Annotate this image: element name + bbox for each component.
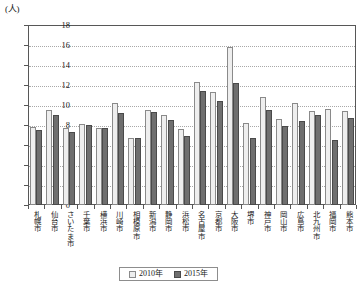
bar-group — [30, 25, 43, 205]
bar-2010 — [260, 97, 266, 205]
bar-2015 — [266, 110, 272, 205]
x-axis-tick-mark — [307, 205, 308, 209]
bar-chart: (人) 024681012141618 札幌市仙台市さいたま市千葉市横浜市川崎市… — [0, 0, 364, 290]
bar-2010 — [276, 119, 282, 205]
bar-2015 — [233, 83, 239, 205]
bar-group — [325, 25, 338, 205]
x-axis-tick-mark — [143, 205, 144, 209]
bar-group — [145, 25, 158, 205]
x-axis-label: 大阪市 — [229, 210, 238, 232]
x-axis-label: 堺市 — [245, 210, 254, 224]
bar-2015 — [299, 121, 305, 205]
x-axis-label: 岡山市 — [278, 210, 287, 232]
bar-2015 — [151, 112, 157, 205]
bar-group — [309, 25, 322, 205]
bar-2015 — [118, 113, 124, 205]
x-axis-tick-mark — [28, 205, 29, 209]
bar-group — [243, 25, 256, 205]
x-axis-label: 熊本市 — [343, 210, 352, 232]
bar-group — [178, 25, 191, 205]
bar-group — [96, 25, 109, 205]
bar-2015 — [168, 120, 174, 205]
bar-group — [63, 25, 76, 205]
bar-2010 — [145, 110, 151, 205]
bar-2010 — [46, 110, 52, 205]
x-axis-tick-mark — [225, 205, 226, 209]
x-axis-tick-mark — [323, 205, 324, 209]
x-axis-tick-mark — [110, 205, 111, 209]
x-axis-label: 北九州市 — [311, 210, 320, 239]
bar-2015 — [250, 138, 256, 205]
x-axis-tick-mark — [208, 205, 209, 209]
x-axis-tick-mark — [356, 205, 357, 209]
x-axis-label: 千葉市 — [81, 210, 90, 232]
bar-group — [112, 25, 125, 205]
x-axis-tick-mark — [94, 205, 95, 209]
bar-group — [79, 25, 92, 205]
bar-2010 — [178, 129, 184, 205]
bar-2010 — [96, 128, 102, 205]
bar-2010 — [79, 124, 85, 205]
x-axis-label: 浜松市 — [179, 210, 188, 232]
y-axis-unit-label: (人) — [5, 4, 19, 15]
x-axis-tick-mark — [44, 205, 45, 209]
x-axis-tick-mark — [61, 205, 62, 209]
legend-item-2010: 2010年 — [129, 270, 163, 278]
x-axis-label: 相模原市 — [130, 210, 139, 239]
bar-2015 — [135, 138, 141, 205]
bar-2010 — [63, 128, 69, 205]
bar-2015 — [69, 132, 75, 205]
chart-legend: 2010年 2015年 — [119, 267, 218, 281]
light-gray-swatch-icon — [129, 271, 136, 278]
x-axis-label: 福岡市 — [327, 210, 336, 232]
bars-layer — [28, 25, 356, 205]
bar-2015 — [53, 115, 59, 205]
x-axis-label: 名古屋市 — [196, 210, 205, 239]
x-axis-label: 神戸市 — [261, 210, 270, 232]
bar-2010 — [128, 138, 134, 205]
bar-2015 — [348, 118, 354, 205]
x-axis-tick-mark — [258, 205, 259, 209]
x-axis-label: 新潟市 — [147, 210, 156, 232]
bar-group — [46, 25, 59, 205]
bar-group — [128, 25, 141, 205]
bar-2010 — [30, 127, 36, 205]
x-axis-label: 京都市 — [212, 210, 221, 232]
bar-2010 — [309, 111, 315, 205]
bar-group — [227, 25, 240, 205]
x-axis-labels: 札幌市仙台市さいたま市千葉市横浜市川崎市相模原市新潟市静岡市浜松市名古屋市京都市… — [28, 210, 356, 262]
x-axis-tick-mark — [274, 205, 275, 209]
x-axis-label: 広島市 — [294, 210, 303, 232]
bar-2015 — [86, 125, 92, 205]
x-axis-tick-mark — [176, 205, 177, 209]
bar-2010 — [161, 115, 167, 205]
x-axis-tick-mark — [290, 205, 291, 209]
bar-2015 — [332, 140, 338, 205]
bar-group — [194, 25, 207, 205]
bar-group — [276, 25, 289, 205]
bar-2010 — [194, 82, 200, 205]
bar-group — [260, 25, 273, 205]
bar-2015 — [200, 91, 206, 205]
x-axis-tick-mark — [77, 205, 78, 209]
x-axis-tick-mark — [241, 205, 242, 209]
bar-2010 — [292, 103, 298, 205]
bar-2010 — [325, 109, 331, 205]
bar-2015 — [315, 115, 321, 205]
legend-label-2015: 2015年 — [184, 270, 208, 278]
bar-2010 — [112, 103, 118, 205]
bar-group — [292, 25, 305, 205]
bar-2015 — [282, 126, 288, 205]
bar-2010 — [210, 92, 216, 205]
x-axis-label: 川崎市 — [114, 210, 123, 232]
bar-2010 — [342, 111, 348, 205]
legend-label-2010: 2010年 — [139, 270, 163, 278]
bar-2015 — [36, 130, 42, 205]
x-axis-label: 仙台市 — [48, 210, 57, 232]
bar-group — [342, 25, 355, 205]
bar-2015 — [217, 101, 223, 205]
x-axis-label: 横浜市 — [97, 210, 106, 232]
x-axis-label: さいたま市 — [65, 210, 74, 246]
dark-gray-swatch-icon — [174, 271, 181, 278]
x-axis-tick-mark — [192, 205, 193, 209]
